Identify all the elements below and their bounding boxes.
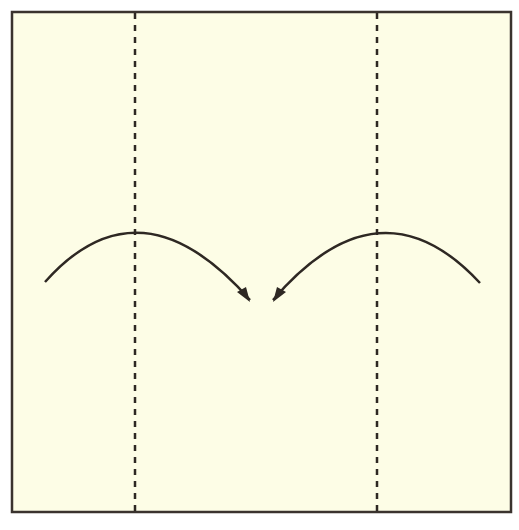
origami-diagram [0, 0, 519, 530]
paper-square [12, 12, 511, 512]
